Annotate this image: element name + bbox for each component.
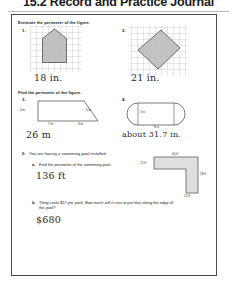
problem-5b-prompt: Tiling costs $17 per yard. How much will… <box>39 200 179 211</box>
problem-5-label-top: 40 ft <box>172 152 178 156</box>
problem-1-grid <box>30 26 82 72</box>
problem-5a-answer: 136 ft <box>36 170 66 181</box>
problem-5a-prompt: Find the perimeter of the swimming pool. <box>39 162 111 167</box>
problem-3-label-left: 4 m <box>20 108 25 112</box>
problem-5-label-left: 12 ft <box>140 161 146 165</box>
problem-5-label-bottom: 12 ft <box>184 194 190 198</box>
problem-5-prompt: You are having a swimming pool installed… <box>29 151 107 156</box>
problem-4-label-height: 5 in. <box>140 110 146 114</box>
problem-5b-answer: $680 <box>36 214 61 225</box>
problem-2-answer: 21 in. <box>131 72 160 83</box>
instruction-estimate-perimeter: Estimate the perimeter of the figure. <box>18 20 90 25</box>
problem-1-number: 1. <box>22 28 26 33</box>
problem-4-label-width: 8 in. <box>154 125 160 129</box>
problem-3-label-slant: 5 m <box>86 108 91 112</box>
instruction-find-perimeter: Find the perimeter of the figure. <box>18 90 81 95</box>
problem-3-number: 3. <box>22 97 26 102</box>
problem-1-answer: 18 in. <box>34 72 63 83</box>
problem-2-number: 2. <box>122 28 126 33</box>
problem-5-label-right: 28 ft <box>200 172 206 176</box>
problem-4-figure <box>124 101 196 127</box>
problem-5b-label: b. <box>32 200 36 205</box>
problem-3-label-bottom-left: 7 m <box>48 122 53 126</box>
problem-3-label-bottom-right: 3 m <box>78 122 83 126</box>
worksheet-body: Estimate the perimeter of the figure. 1. <box>11 14 217 276</box>
page-title: 15.2 Record and Practice Journal <box>0 0 237 11</box>
problem-5a-label: a. <box>32 162 36 167</box>
problem-2-grid <box>130 26 188 76</box>
problem-4-answer: about 31.7 in. <box>122 130 181 139</box>
title-divider <box>8 11 229 12</box>
worksheet-page: 15.2 Record and Practice Journal Estimat… <box>0 0 237 290</box>
problem-5-number: 5. <box>22 151 26 156</box>
problem-3-figure <box>28 99 106 127</box>
problem-3-answer: 26 m <box>26 129 51 140</box>
